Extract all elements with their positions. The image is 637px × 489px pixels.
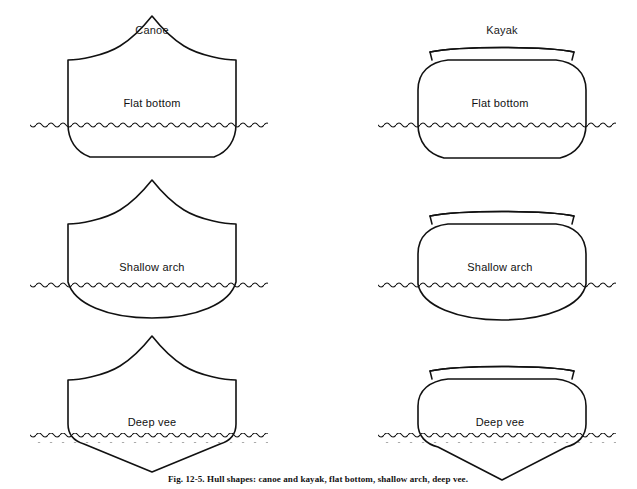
waterline-canoe-flat <box>30 118 268 128</box>
hull-shapes-figure: Canoe Kayak <box>0 0 637 489</box>
hull-label-kayak-flat-bottom: Flat bottom <box>471 97 528 109</box>
hull-label-canoe-deep-vee: Deep vee <box>128 416 177 428</box>
waterlines <box>30 118 616 443</box>
hull-cross-sections-drawing <box>0 0 637 489</box>
figure-caption: Fig. 12-5. Hull shapes: canoe and kayak,… <box>168 474 468 484</box>
waterline-kayak-vee <box>378 433 616 443</box>
hull-canoe-flat-bottom <box>68 16 236 157</box>
hull-label-canoe-flat-bottom: Flat bottom <box>123 97 180 109</box>
column-heading-canoe: Canoe <box>135 24 168 36</box>
waterline-kayak-flat <box>378 118 616 128</box>
waterline-kayak-arch <box>378 282 616 292</box>
hull-label-kayak-shallow-arch: Shallow arch <box>467 261 532 273</box>
waterline-canoe-vee <box>30 433 268 443</box>
hull-canoe-shallow-arch <box>68 180 236 318</box>
column-heading-kayak: Kayak <box>486 24 518 36</box>
hull-canoe-deep-vee <box>68 336 236 472</box>
hull-label-kayak-deep-vee: Deep vee <box>476 416 525 428</box>
hull-label-canoe-shallow-arch: Shallow arch <box>119 261 184 273</box>
waterline-canoe-arch <box>30 282 268 292</box>
